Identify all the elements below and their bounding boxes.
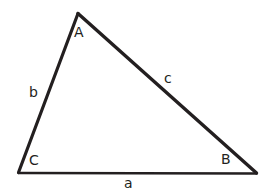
vertex-label-c: C — [29, 153, 39, 167]
vertex-label-a: A — [74, 25, 84, 39]
side-label-c: c — [164, 71, 172, 85]
triangle-side-c-line — [78, 14, 257, 174]
side-label-a: a — [124, 176, 133, 190]
triangle-side-b-line — [19, 14, 79, 173]
triangle-diagram: A B C a b c — [0, 0, 269, 195]
side-label-b: b — [29, 85, 38, 99]
triangle-side-a-line — [19, 173, 257, 174]
vertex-label-b: B — [221, 152, 231, 166]
